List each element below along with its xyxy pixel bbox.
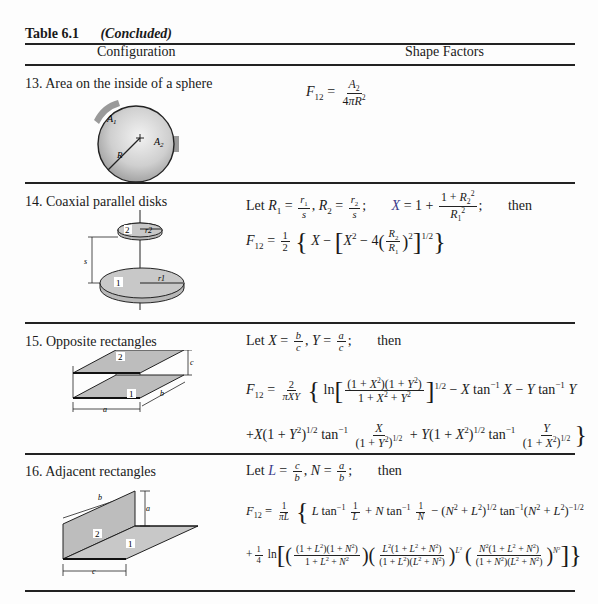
svg-text:s: s (84, 257, 87, 266)
row-15-formula-line-2: +X(1 + Y2)1/2 tan−1 X(1 + Y2)1/2 + Y(1 +… (246, 422, 587, 449)
svg-text:c: c (190, 358, 194, 367)
svg-text:1: 1 (128, 539, 133, 549)
svg-text:1: 1 (116, 278, 121, 288)
svg-text:2: 2 (95, 529, 100, 539)
table-caption: (Concluded) (100, 26, 172, 41)
svg-text:2: 2 (125, 225, 130, 235)
svg-text:a: a (146, 504, 150, 513)
sphere-figure: A1 A2 R (88, 100, 180, 184)
row-15-bottom-rule (25, 453, 575, 455)
coaxial-disks-figure: 2 r2 s 1 r1 (80, 210, 190, 310)
row-13-label: 13. Area on the inside of a sphere (25, 76, 212, 92)
row-13-formula: F12 = A24πR2 (306, 78, 370, 108)
row-16-bottom-rule (25, 590, 575, 592)
row-15-let-line: Let X = bc, Y = ac; then (246, 330, 401, 353)
column-header-configuration: Configuration (97, 44, 176, 60)
svg-text:c: c (92, 567, 96, 576)
svg-text:b: b (98, 493, 102, 502)
row-14-bottom-rule (25, 322, 575, 324)
table-title: Table 6.1 (Concluded) (25, 26, 172, 42)
row-14-formula: F12 = 12 { X − [X2 − 4(R2R1)2]1/2} (246, 228, 446, 256)
row-16-formula-line-2: +14 ln[((1 + L2)(1 + N2)1 + L2 + N2)(L2(… (246, 542, 582, 568)
row-15-label: 15. Opposite rectangles (25, 334, 157, 350)
svg-text:r1: r1 (158, 274, 165, 283)
adjacent-rectangles-figure: b 2 1 a c (60, 484, 205, 584)
svg-text:2: 2 (118, 352, 123, 362)
table-label: Table 6.1 (25, 26, 79, 41)
svg-text:a: a (103, 405, 107, 414)
svg-text:1: 1 (129, 389, 134, 399)
row-16-let-line: Let L = cb, N = ab; then (246, 460, 402, 483)
svg-text:r2: r2 (145, 226, 152, 235)
header-bottom-rule (25, 64, 575, 66)
opposite-rectangles-figure: 1 2 c a b (70, 350, 205, 432)
row-16-label: 16. Adjacent rectangles (25, 464, 156, 480)
row-14-let-line: Let R1 = r1s, R2 = r2s; X = 1 + 1 + R22R… (246, 190, 532, 224)
row-15-formula-line-1: F12 = 2πXY { ln[(1 + X2)(1 + Y2)1 + X2 +… (246, 377, 576, 405)
row-16-formula-line-1: F12 = 1πL { L tan−1 1L + N tan−1 1N − (N… (246, 499, 584, 525)
svg-text:R: R (116, 150, 123, 160)
row-14-label: 14. Coaxial parallel disks (25, 194, 167, 210)
column-header-shape-factors: Shape Factors (405, 44, 484, 60)
svg-text:b: b (160, 389, 164, 398)
row-13-bottom-rule (25, 182, 575, 184)
